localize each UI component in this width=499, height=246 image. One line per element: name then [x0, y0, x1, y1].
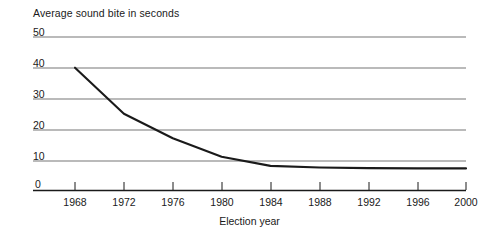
- gridlines: [33, 37, 466, 161]
- xtick-label-1976: 1976: [153, 196, 193, 208]
- xtick-label-1992: 1992: [349, 196, 389, 208]
- xtick-label-1968: 1968: [55, 196, 95, 208]
- xtick-label-2000: 2000: [446, 196, 486, 208]
- plot-area: [0, 0, 499, 246]
- xtick-label-1980: 1980: [202, 196, 242, 208]
- data-series-line: [75, 68, 466, 169]
- xtick-label-1996: 1996: [398, 196, 438, 208]
- x-axis-ticks: [75, 182, 466, 190]
- chart-container: Average sound bite in seconds 50 40 30 2…: [0, 0, 499, 246]
- xtick-label-1972: 1972: [104, 196, 144, 208]
- xtick-label-1984: 1984: [251, 196, 291, 208]
- x-axis-title: Election year: [0, 215, 499, 227]
- xtick-label-1988: 1988: [300, 196, 340, 208]
